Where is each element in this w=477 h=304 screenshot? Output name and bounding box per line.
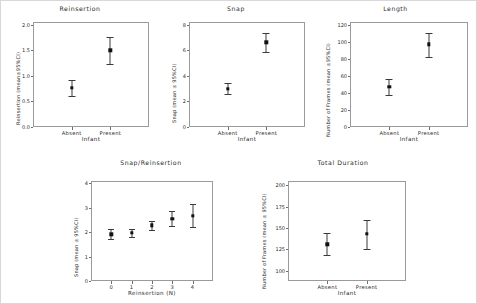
y-tick-mark: [348, 93, 351, 94]
x-axis-label: Infant: [189, 136, 305, 142]
y-tick-mark: [187, 25, 190, 26]
y-tick-label: 100: [330, 39, 347, 45]
error-bar-cap: [129, 237, 135, 238]
y-tick-mark: [187, 127, 190, 128]
y-tick-label: 100: [268, 268, 285, 274]
x-axis-label: Reinsertion (N): [91, 290, 213, 296]
plot-area-wrap: 01234 01234: [91, 181, 213, 281]
y-tick-label: 3: [71, 205, 88, 211]
error-bar-cap: [169, 226, 175, 227]
data-point-marker: [226, 87, 229, 90]
y-tick-mark: [187, 50, 190, 51]
error-bar-cap: [190, 204, 196, 205]
y-tick-mark: [348, 42, 351, 43]
y-tick-mark: [348, 25, 351, 26]
error-bar-cap: [263, 52, 270, 53]
data-point-marker: [191, 214, 194, 217]
y-tick-label: 1: [71, 254, 88, 260]
data-point-marker: [130, 231, 133, 234]
chart-title: Length: [317, 5, 474, 12]
x-axis-label: Infant: [33, 136, 149, 142]
error-bar-cap: [107, 64, 114, 65]
error-bar-cap: [169, 211, 175, 212]
error-bar-cap: [107, 37, 114, 38]
error-bar-cap: [149, 221, 155, 222]
y-tick-label: 6: [169, 47, 186, 53]
y-tick-label: 60: [330, 73, 347, 79]
y-tick-mark: [31, 76, 34, 77]
error-bar-cap: [263, 33, 270, 34]
plot-box: [189, 22, 305, 127]
y-tick-label: 120: [330, 22, 347, 28]
y-tick-label: 1.0: [13, 73, 30, 79]
plot-area-wrap: 02468 AbsentPresent: [189, 22, 305, 127]
y-tick-mark: [286, 249, 289, 250]
error-bar-cap: [224, 83, 231, 84]
error-bar-cap: [129, 229, 135, 230]
x-tick-mark: [111, 281, 112, 284]
data-point-marker: [150, 224, 153, 227]
y-tick-mark: [31, 101, 34, 102]
y-tick-label: 2: [169, 98, 186, 104]
x-tick-mark: [228, 127, 229, 130]
plot-area-wrap: 020406080100120 AbsentPresent: [350, 22, 468, 127]
chart-title: Reinsertion: [5, 5, 155, 12]
data-point-marker: [326, 243, 329, 246]
y-tick-label: 0: [169, 124, 186, 130]
x-tick-mark: [389, 127, 390, 130]
error-bar-cap: [363, 249, 370, 250]
x-tick-mark: [172, 281, 173, 284]
x-tick-mark: [132, 281, 133, 284]
y-tick-label: 0: [330, 124, 347, 130]
data-point-marker: [388, 85, 391, 88]
y-tick-mark: [286, 207, 289, 208]
y-tick-mark: [31, 25, 34, 26]
error-bar-cap: [324, 255, 331, 256]
error-bar-cap: [149, 230, 155, 231]
y-tick-label: 200: [268, 182, 285, 188]
plot-box: [350, 22, 468, 127]
x-tick-mark: [72, 127, 73, 130]
y-tick-mark: [89, 208, 92, 209]
y-tick-label: 2: [71, 229, 88, 235]
x-tick-mark: [327, 281, 328, 284]
x-axis-label: Infant: [288, 290, 406, 296]
error-bar-cap: [68, 80, 75, 81]
chart-title: Total Duration: [253, 159, 433, 166]
data-point-marker: [109, 48, 112, 51]
error-bar-cap: [68, 96, 75, 97]
y-axis-label: Snap (mean ± 95%CI): [73, 217, 79, 277]
y-tick-mark: [348, 76, 351, 77]
chart-panel-length: Length Number of Frames (mean ±95%CI) 02…: [317, 5, 474, 147]
error-bar-cap: [363, 220, 370, 221]
y-tick-label: 20: [330, 107, 347, 113]
plot-box: [33, 22, 149, 127]
y-tick-mark: [187, 76, 190, 77]
error-bar-cap: [386, 79, 393, 80]
y-tick-label: 4: [169, 73, 186, 79]
chart-panel-snap: Snap Snap (mean ± 95%CI) 02468 AbsentPre…: [161, 5, 311, 147]
error-bar-cap: [324, 233, 331, 234]
y-axis-label: Number of Frames (mean ± 95%CI): [261, 193, 267, 289]
y-tick-mark: [348, 110, 351, 111]
data-point-marker: [171, 217, 174, 220]
data-point-marker: [70, 86, 73, 89]
y-tick-label: 8: [169, 22, 186, 28]
chart-panel-snap-reinsertion: Snap/Reinsertion Snap (mean ± 95%CI) 012…: [61, 159, 241, 301]
y-tick-label: 2.0: [13, 22, 30, 28]
y-tick-mark: [286, 185, 289, 186]
chart-title: Snap: [161, 5, 311, 12]
plot-area-wrap: 0.00.51.01.52.0 AbsentPresent: [33, 22, 149, 127]
error-bar-cap: [386, 95, 393, 96]
chart-panel-reinsertion: Reinsertion Reinsertion (mean±95%CI) 0.0…: [5, 5, 155, 147]
plot-box: [91, 181, 213, 281]
x-tick-mark: [110, 127, 111, 130]
y-tick-label: 150: [268, 225, 285, 231]
y-tick-mark: [348, 127, 351, 128]
error-bar-cap: [190, 227, 196, 228]
plot-area-wrap: 100125150175200 AbsentPresent: [288, 181, 406, 281]
x-tick-mark: [367, 281, 368, 284]
y-tick-label: 0: [71, 278, 88, 284]
y-tick-label: 175: [268, 204, 285, 210]
y-tick-label: 40: [330, 90, 347, 96]
